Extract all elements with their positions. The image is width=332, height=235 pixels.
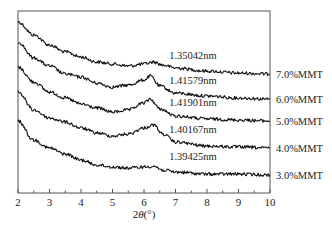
x-axis-label: 2θ(°) [133,208,156,221]
x-tick-label: 5 [110,196,116,208]
series-label: 7.0%MMT [276,69,324,80]
series-labels: 7.0%MMT6.0%MMT5.0%MMT4.0%MMT3.0%MMT [276,69,324,181]
series-label: 4.0%MMT [276,143,324,154]
x-tick-label: 10 [265,196,277,208]
d-spacing-label: 1.41579nm [169,75,217,86]
series-label: 5.0%MMT [276,116,324,127]
x-axis-tick-labels: 2345678910 [15,196,276,208]
d-spacing-label: 1.40167nm [169,124,217,135]
x-tick-label: 9 [236,196,242,208]
x-tick-label: 7 [173,196,179,208]
xrd-chart: 2345678910 1.35042nm1.41579nm1.41901nm1.… [0,0,332,235]
series-curves [18,21,270,176]
x-tick-label: 8 [204,196,210,208]
d-spacing-label: 1.39425nm [169,151,217,162]
x-tick-label: 2 [15,196,21,208]
x-tick-label: 6 [141,196,147,208]
plot-frame [18,11,270,193]
x-axis-ticks [18,189,270,193]
x-tick-label: 3 [47,196,53,208]
x-tick-label: 4 [78,196,84,208]
d-spacing-label: 1.35042nm [169,50,217,61]
d-spacing-label: 1.41901nm [169,97,217,108]
series-label: 6.0%MMT [276,94,324,105]
series-label: 3.0%MMT [276,170,324,181]
series-curve [18,66,270,122]
